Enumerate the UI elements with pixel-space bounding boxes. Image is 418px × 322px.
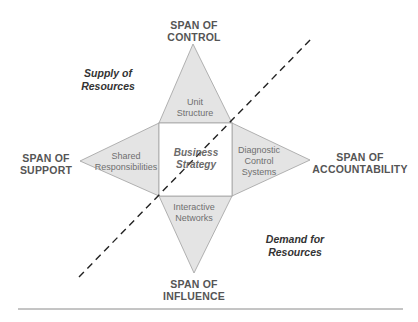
supply-line1: Supply of: [74, 67, 142, 80]
span-top-line1: SPAN OF: [163, 19, 225, 31]
lever-left-line2: Responsibilities: [92, 162, 160, 173]
supply-line2: Resources: [74, 80, 142, 93]
lever-bottom-line2: Networks: [164, 213, 224, 224]
center-line2: Strategy: [163, 159, 229, 171]
lever-top-line2: Structure: [165, 108, 225, 119]
demand-for-resources-label: Demand for Resources: [257, 233, 333, 259]
demand-line2: Resources: [257, 246, 333, 259]
span-right-line1: SPAN OF: [310, 151, 410, 163]
span-top-line2: CONTROL: [163, 31, 225, 43]
supply-of-resources-label: Supply of Resources: [74, 67, 142, 93]
lever-left-line1: Shared: [92, 151, 160, 162]
span-of-control-label: SPAN OF CONTROL: [163, 19, 225, 43]
span-bottom-line1: SPAN OF: [160, 278, 228, 290]
span-left-line1: SPAN OF: [16, 152, 76, 164]
span-right-line2: ACCOUNTABILITY: [310, 163, 410, 175]
lever-right-line3: Systems: [231, 167, 287, 178]
center-line1: Business: [163, 147, 229, 159]
interactive-networks-label: Interactive Networks: [164, 202, 224, 224]
span-bottom-line2: INFLUENCE: [160, 290, 228, 302]
demand-line1: Demand for: [257, 233, 333, 246]
lever-top-line1: Unit: [165, 97, 225, 108]
lever-right-line2: Control: [231, 156, 287, 167]
span-of-influence-label: SPAN OF INFLUENCE: [160, 278, 228, 302]
business-strategy-label: Business Strategy: [163, 147, 229, 171]
span-of-accountability-label: SPAN OF ACCOUNTABILITY: [310, 151, 410, 175]
span-of-support-label: SPAN OF SUPPORT: [16, 152, 76, 176]
diagnostic-control-systems-label: Diagnostic Control Systems: [231, 145, 287, 178]
lever-bottom-line1: Interactive: [164, 202, 224, 213]
span-left-line2: SUPPORT: [16, 164, 76, 176]
shared-responsibilities-label: Shared Responsibilities: [92, 151, 160, 173]
lever-right-line1: Diagnostic: [231, 145, 287, 156]
unit-structure-label: Unit Structure: [165, 97, 225, 119]
